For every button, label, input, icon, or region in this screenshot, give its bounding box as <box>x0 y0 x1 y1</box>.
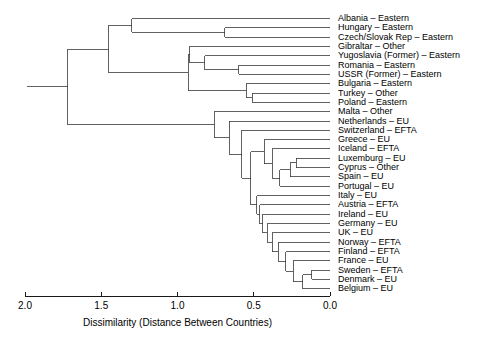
leaf-label: Malta – Other <box>338 107 393 116</box>
leaf-label: Belgium – EU <box>338 284 393 293</box>
x-axis-title: Dissimilarity (Distance Between Countrie… <box>0 318 355 328</box>
tree-branches <box>27 19 330 289</box>
x-tick-label: 0.0 <box>320 301 340 311</box>
x-tick-label: 1.5 <box>91 301 111 311</box>
dendrogram-figure: Albania – EasternHungary – EasternCzech/… <box>0 0 487 337</box>
x-tick-label: 0.5 <box>244 301 264 311</box>
leaf-label: UK – EU <box>338 228 373 237</box>
leaf-label: Yugoslavia (Former) – Eastern <box>338 51 460 60</box>
leaf-label: Hungary – Eastern <box>338 23 413 32</box>
x-tick-label: 1.0 <box>168 301 188 311</box>
x-tick-label: 2.0 <box>15 301 35 311</box>
x-axis <box>25 292 330 296</box>
leaf-label: France – EU <box>338 256 389 265</box>
leaf-label: Bulgaria – Eastern <box>338 79 412 88</box>
